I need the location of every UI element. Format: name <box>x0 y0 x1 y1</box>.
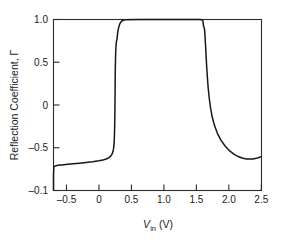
y-axis-tick-labels: 1.0 0.5 0 –0.5 –0.1 <box>29 14 49 196</box>
x-ticklabel-3: 1.0 <box>157 194 171 205</box>
x-ticklabel-2: 0.5 <box>124 194 138 205</box>
x-axis-ticks <box>67 185 262 191</box>
svg-text:Vin (V): Vin (V) <box>143 218 173 233</box>
x-axis-title: Vin (V) <box>143 218 173 233</box>
x-axis-tick-labels: –0.5 0 0.5 1.0 1.5 2.0 2.5 <box>57 194 269 205</box>
y-axis-title: Reflection Coefficient, Γ <box>8 49 20 160</box>
x-ticklabel-1: 0 <box>96 194 102 205</box>
y-ticklabel-3: –0.5 <box>29 142 49 153</box>
x-ticklabel-4: 1.5 <box>189 194 203 205</box>
x-ticklabel-0: –0.5 <box>57 194 77 205</box>
chart-canvas: 1.0 0.5 0 –0.5 –0.1 –0.5 0 0.5 1.0 1.5 2… <box>0 0 282 244</box>
plot-frame <box>54 20 262 191</box>
x-ticklabel-5: 2.0 <box>222 194 236 205</box>
y-ticklabel-2: 0 <box>42 100 48 111</box>
y-ticklabel-4: –0.1 <box>29 185 49 196</box>
y-axis-title-text: Reflection Coefficient, Γ <box>8 49 20 160</box>
y-ticklabel-1: 0.5 <box>34 57 48 68</box>
chart-figure: 1.0 0.5 0 –0.5 –0.1 –0.5 0 0.5 1.0 1.5 2… <box>0 0 282 244</box>
x-axis-title-unit: (V) <box>159 218 173 230</box>
y-ticklabel-0: 1.0 <box>34 14 48 25</box>
data-curve-reflection-coefficient <box>54 20 262 191</box>
x-ticklabel-6: 2.5 <box>254 194 268 205</box>
